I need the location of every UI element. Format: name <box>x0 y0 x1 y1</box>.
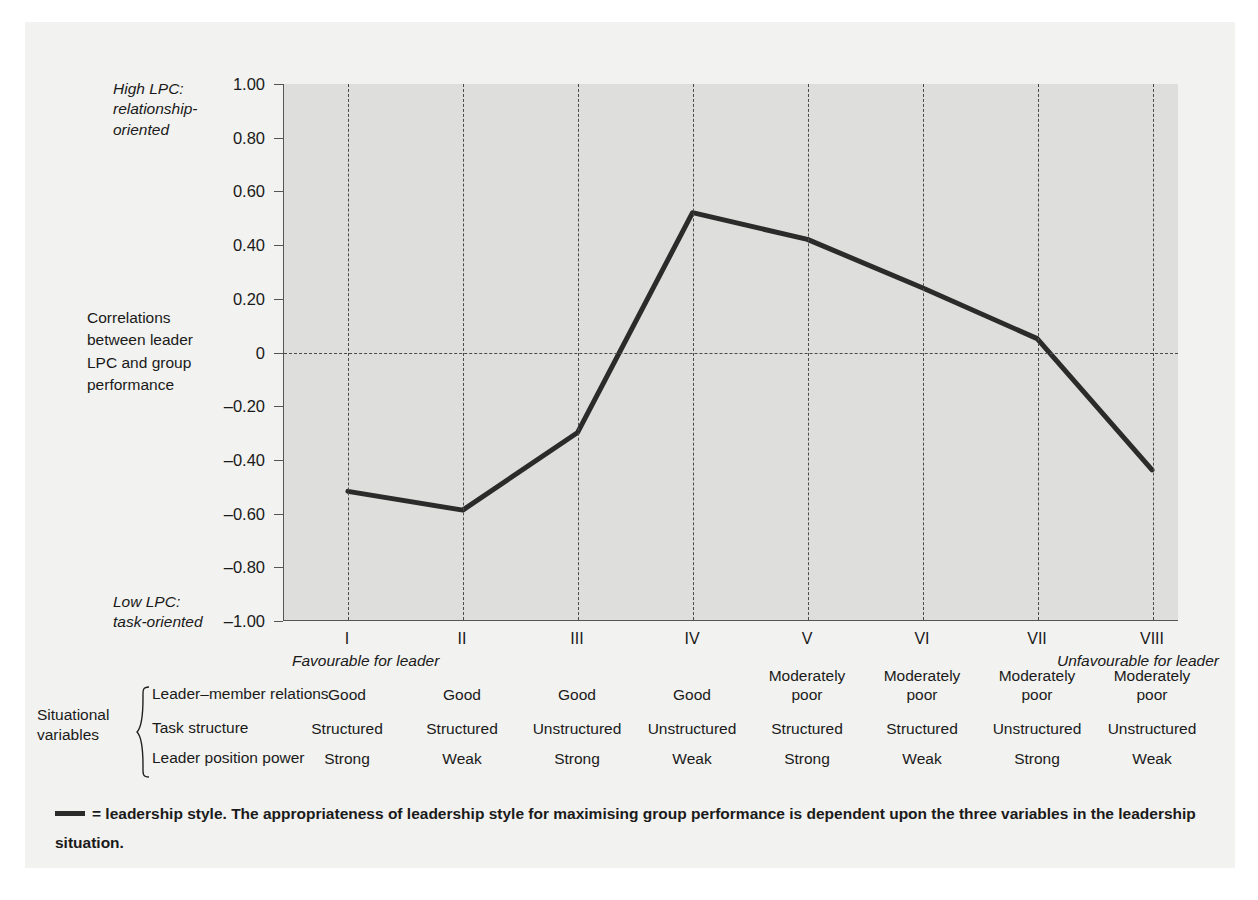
y-tick-mark <box>274 84 283 85</box>
situational-variable-cell: Moderately poor <box>1114 666 1191 705</box>
situational-variable-cell: Weak <box>902 749 941 768</box>
y-tick-label: 0.20 <box>233 291 265 308</box>
situational-variable-cell: Unstructured <box>1108 719 1197 738</box>
y-tick-label: –0.60 <box>224 505 265 522</box>
situational-variable-cell: Strong <box>784 749 830 768</box>
caption-text: = leadership style. The appropriateness … <box>55 805 1196 851</box>
y-tick-label: –0.20 <box>224 398 265 415</box>
x-tick-label: II <box>458 630 467 648</box>
x-tick-label: VII <box>1027 630 1047 648</box>
situational-variable-cell: Unstructured <box>648 719 737 738</box>
x-axis-left-note: Favourable for leader <box>292 652 439 670</box>
y-tick-mark <box>274 514 283 515</box>
y-tick-mark <box>274 191 283 192</box>
x-tick-label: VIII <box>1140 630 1164 648</box>
figure-caption: = leadership style. The appropriateness … <box>55 800 1205 857</box>
y-tick-mark <box>274 460 283 461</box>
situational-variable-cell: Good <box>558 685 596 704</box>
y-tick-mark <box>274 245 283 246</box>
y-tick-label: 0.40 <box>233 237 265 254</box>
zero-gridline <box>284 353 1178 354</box>
situational-variable-cell: Weak <box>1132 749 1171 768</box>
y-tick-label: 1.00 <box>233 76 265 93</box>
situational-variable-cell: Structured <box>771 719 843 738</box>
figure-panel: High LPC: relationship- oriented Correla… <box>25 22 1235 868</box>
y-tick-label: –1.00 <box>224 613 265 630</box>
situational-variables-title: Situational variables <box>37 705 132 745</box>
x-tick-label: IV <box>684 630 699 648</box>
y-tick-mark <box>274 138 283 139</box>
y-tick-mark <box>274 567 283 568</box>
situational-variable-cell: Moderately poor <box>884 666 961 705</box>
y-tick-label: 0 <box>256 344 265 361</box>
situational-variable-row-label: Task structure <box>152 719 248 737</box>
situational-variable-cell: Good <box>673 685 711 704</box>
situational-variable-cell: Unstructured <box>993 719 1082 738</box>
y-tick-mark <box>274 406 283 407</box>
x-tick-label: V <box>802 630 813 648</box>
situational-variable-cell: Strong <box>324 749 370 768</box>
situational-variable-cell: Structured <box>311 719 383 738</box>
y-tick-mark <box>274 353 283 354</box>
situational-variable-cell: Good <box>328 685 366 704</box>
situational-variable-cell: Structured <box>886 719 958 738</box>
situational-variable-cell: Moderately poor <box>769 666 846 705</box>
situational-variable-row-label: Leader–member relations <box>152 685 329 703</box>
y-tick-mark <box>274 299 283 300</box>
situational-variable-cell: Weak <box>442 749 481 768</box>
y-tick-label: 0.80 <box>233 129 265 146</box>
situational-variable-cell: Strong <box>554 749 600 768</box>
situational-variable-cell: Unstructured <box>533 719 622 738</box>
y-tick-label: 0.60 <box>233 183 265 200</box>
situational-variable-cell: Structured <box>426 719 498 738</box>
situational-variable-cell: Weak <box>672 749 711 768</box>
x-tick-label: I <box>345 630 349 648</box>
situational-variable-row-label: Leader position power <box>152 749 305 767</box>
curly-brace-icon <box>135 686 151 778</box>
situational-variable-cell: Strong <box>1014 749 1060 768</box>
situational-variables-table: Situational variables Leader–member rela… <box>25 677 1235 787</box>
situational-variable-cell: Good <box>443 685 481 704</box>
plot-area <box>283 84 1178 621</box>
x-tick-label: VI <box>914 630 929 648</box>
y-tick-label: –0.80 <box>224 559 265 576</box>
leadership-style-polyline <box>348 213 1152 510</box>
y-tick-mark <box>274 621 283 622</box>
situational-variable-cell: Moderately poor <box>999 666 1076 705</box>
x-tick-label: III <box>570 630 583 648</box>
line-swatch-icon <box>55 811 85 816</box>
y-tick-label: –0.40 <box>224 452 265 469</box>
